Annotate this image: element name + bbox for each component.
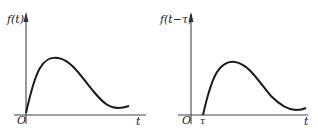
signal-shift-diagram: f(t) t O f(t−τ) t O τ bbox=[0, 0, 318, 139]
left-y-axis-label: f(t) bbox=[6, 13, 24, 26]
left-plot: f(t) t O bbox=[6, 12, 146, 128]
right-x-axis-label: t bbox=[304, 115, 309, 128]
left-x-axis-label: t bbox=[136, 115, 141, 128]
left-origin-label: O bbox=[17, 114, 26, 127]
left-y-arrow-icon bbox=[24, 12, 29, 22]
right-tau-label: τ bbox=[200, 116, 206, 126]
right-origin-label: O bbox=[182, 114, 191, 127]
right-plot: f(t−τ) t O τ bbox=[159, 12, 309, 128]
right-curve bbox=[203, 62, 306, 115]
left-curve bbox=[26, 58, 129, 113]
right-y-axis-label: f(t−τ) bbox=[159, 13, 192, 26]
